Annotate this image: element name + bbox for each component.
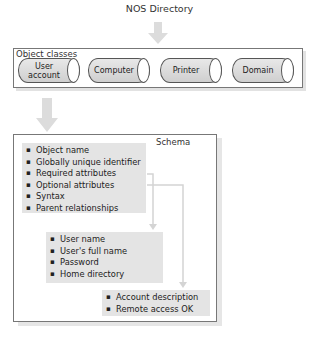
optional-attributes-block: Account description Remote access OK	[102, 290, 210, 316]
list-item: Required attributes	[36, 168, 142, 180]
list-item: User name	[60, 234, 159, 246]
list-item: User's full name	[60, 246, 159, 258]
required-attributes-list: User name User's full name Password Home…	[46, 232, 163, 282]
list-item: Globally unique identifier	[36, 157, 142, 169]
optional-attributes-list: Account description Remote access OK	[102, 290, 210, 317]
list-item: Object name	[36, 145, 142, 157]
list-item: Syntax	[36, 191, 142, 203]
list-item: Password	[60, 257, 159, 269]
list-item: Remote access OK	[116, 304, 206, 316]
schema-attributes-block: Object name Globally unique identifier R…	[22, 143, 146, 213]
list-item: Optional attributes	[36, 180, 142, 192]
required-attributes-block: User name User's full name Password Home…	[46, 232, 163, 283]
schema-attributes-list: Object name Globally unique identifier R…	[22, 143, 146, 216]
list-item: Home directory	[60, 269, 159, 281]
list-item: Parent relationships	[36, 203, 142, 215]
list-item: Account description	[116, 292, 206, 304]
